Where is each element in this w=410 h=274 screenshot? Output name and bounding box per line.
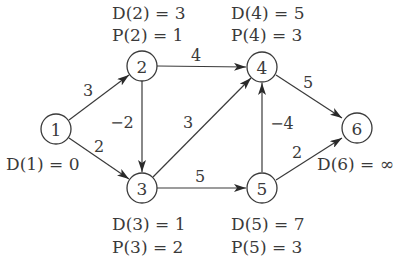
annotation-p4: P(4) = 3 <box>231 25 302 45</box>
annotation-p3: P(3) = 2 <box>112 237 183 257</box>
annotation-d2: D(2) = 3 <box>112 3 186 23</box>
node-4: 4 <box>247 52 277 82</box>
annotation-p2: P(2) = 1 <box>112 25 183 45</box>
svg-text:5: 5 <box>257 179 268 199</box>
annotation-d5: D(5) = 7 <box>231 214 305 234</box>
graph-diagram: 3 2 4 −2 3 5 −4 5 2 1 2 3 4 5 6 D(1) = 0… <box>0 0 410 274</box>
svg-text:6: 6 <box>352 119 363 139</box>
annotation-d1: D(1) = 0 <box>6 154 80 174</box>
edge-2-4 <box>157 66 246 67</box>
node-3: 3 <box>127 173 157 203</box>
node-1: 1 <box>41 114 71 144</box>
weight-3-4: 3 <box>183 113 193 132</box>
svg-text:1: 1 <box>51 120 62 140</box>
weight-4-6: 5 <box>303 73 313 92</box>
edge-3-4 <box>153 78 251 177</box>
weight-2-3: −2 <box>110 113 134 132</box>
annotation-d4: D(4) = 5 <box>231 3 305 23</box>
weight-3-5: 5 <box>195 167 205 186</box>
weight-5-6: 2 <box>292 143 302 162</box>
node-2: 2 <box>127 51 157 81</box>
node-5: 5 <box>247 173 277 203</box>
annotation-d3: D(3) = 1 <box>112 214 186 234</box>
weight-1-3: 2 <box>94 137 104 156</box>
weight-1-2: 3 <box>83 81 93 100</box>
annotation-d6: D(6) = ∞ <box>317 154 394 174</box>
svg-text:2: 2 <box>137 57 148 77</box>
annotation-p5: P(5) = 3 <box>231 237 302 257</box>
svg-text:3: 3 <box>137 179 148 199</box>
svg-text:4: 4 <box>257 58 268 78</box>
node-6: 6 <box>342 113 372 143</box>
weight-5-4: −4 <box>270 114 294 133</box>
weight-2-4: 4 <box>191 46 201 65</box>
